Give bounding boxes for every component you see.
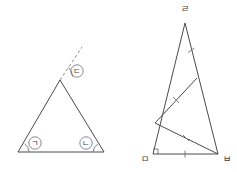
- tick-cevian-lower: [183, 135, 189, 141]
- vertex-label-bottom-left: ㅁ: [141, 154, 149, 164]
- vertex-label-top: ㄹ: [181, 4, 189, 14]
- right-figure-group: ㄹ ㅁ ㅂ: [0, 0, 237, 172]
- right-triangle-outline: [153, 23, 218, 154]
- figure-canvas: ㄱ ㄴ ㄷ ㄹ ㅁ: [0, 0, 237, 172]
- vertex-label-bottom-right: ㅂ: [223, 154, 231, 164]
